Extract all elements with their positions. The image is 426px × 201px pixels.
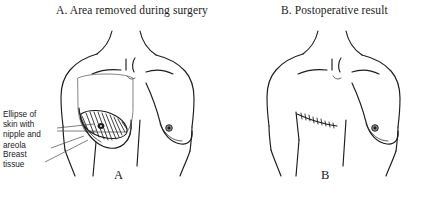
annotation-breast-tissue: Breast tissue <box>3 150 61 170</box>
annotation-ellipse-of-skin: Ellipse of skin with nipple and areola <box>3 110 61 151</box>
figure-b-label: B <box>321 168 329 183</box>
illustration-canvas: A. Area removed during surgery B. Postop… <box>0 0 426 201</box>
scar-suture-marks <box>301 113 334 128</box>
figure-b-torso <box>267 31 400 176</box>
line-art <box>0 0 426 201</box>
figure-a-torso <box>61 31 194 176</box>
figure-a-label: A <box>114 168 123 183</box>
